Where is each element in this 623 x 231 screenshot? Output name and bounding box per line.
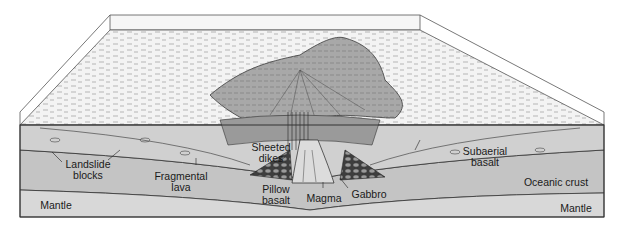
block-diagram: Landslide blocks Fragmental lava Mantle … [0,0,623,231]
back-wall [110,15,420,30]
label-landslide-blocks: Landslide blocks [58,159,118,181]
label-fragmental-lava: Fragmental lava [150,171,212,193]
label-mantle-right: Mantle [556,203,596,214]
label-gabbro: Gabbro [345,189,393,200]
label-magma: Magma [303,193,345,204]
label-mantle-left: Mantle [36,200,76,211]
label-subaerial-basalt: Subaerial basalt [456,146,514,168]
label-sheeted-dikes: Sheeted dikes [246,142,296,164]
label-oceanic-crust: Oceanic crust [518,177,594,188]
label-pillow-basalt: Pillow basalt [256,184,296,206]
